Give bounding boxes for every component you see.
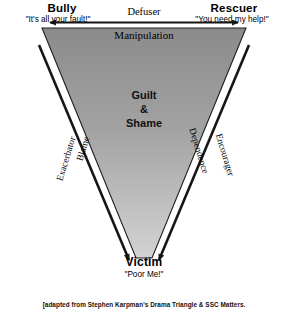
attribution-note: [adapted from Stephen Karpman's Drama Tr… bbox=[0, 302, 288, 309]
role-victim-name: Victim bbox=[94, 256, 194, 269]
role-rescuer-quote: "You need my help!" bbox=[178, 16, 286, 25]
center-line-shame: Shame bbox=[0, 116, 288, 130]
edge-label-manipulation: Manipulation bbox=[0, 30, 288, 42]
edge-label-defuser: Defuser bbox=[0, 6, 288, 17]
role-victim-quote: "Poor Me!" bbox=[94, 271, 194, 280]
center-line-guilt: Guilt bbox=[0, 88, 288, 102]
drama-triangle-diagram: Bully "It's all your fault!" Rescuer "Yo… bbox=[0, 0, 288, 316]
role-victim: Victim "Poor Me!" bbox=[94, 256, 194, 279]
center-line-ampersand: & bbox=[0, 102, 288, 116]
center-text-guilt-shame: Guilt & Shame bbox=[0, 88, 288, 130]
role-bully-quote: "It's all your fault!" bbox=[6, 16, 110, 25]
